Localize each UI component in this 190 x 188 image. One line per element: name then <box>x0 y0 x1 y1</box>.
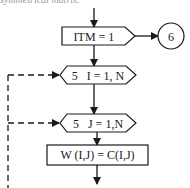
inner-loop-hexagon: 5 J = 1,N <box>60 114 136 132</box>
outer-loop-hexagon: 5 I = 1, N <box>60 66 136 84</box>
assign-box: W (I,J) = C(I,J) <box>47 145 148 165</box>
loop-return-lines <box>8 75 59 188</box>
assign-box-label: W (I,J) = C(I,J) <box>60 148 134 162</box>
outer-loop-label: 5 I = 1, N <box>72 69 125 83</box>
init-box: ITM = 1 <box>62 27 135 45</box>
connector-circle: 6 <box>158 23 184 49</box>
flowchart-diagram: ITM = 1 6 5 I = 1, N 5 J = 1,N W (I,J) =… <box>0 0 190 188</box>
inner-loop-label: 5 J = 1,N <box>73 117 123 131</box>
connector-label: 6 <box>168 30 174 44</box>
init-box-label: ITM = 1 <box>74 30 115 44</box>
